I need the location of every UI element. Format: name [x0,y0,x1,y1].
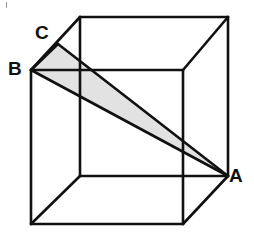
vertex-label-a: A [229,166,243,185]
vertex-label-b: B [8,59,22,78]
edge-connect-bottom-right [183,176,228,224]
vertex-label-c: C [35,23,49,42]
triangle-edge-ba [31,70,228,176]
triangle-abc-shade [31,44,228,176]
triangle-edge-ca [58,44,228,176]
edge-connect-bottom-left [31,176,80,224]
cube-figure: A B C [0,0,254,234]
edge-connect-top-right [183,17,228,70]
